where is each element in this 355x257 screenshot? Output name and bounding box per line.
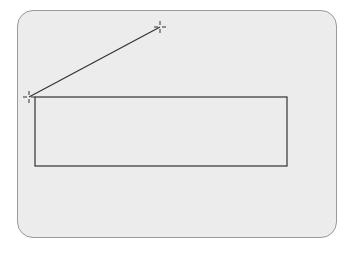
drawing-surface[interactable] xyxy=(0,0,355,257)
rectangle-shape[interactable] xyxy=(35,97,287,166)
line-shape[interactable] xyxy=(29,27,160,97)
